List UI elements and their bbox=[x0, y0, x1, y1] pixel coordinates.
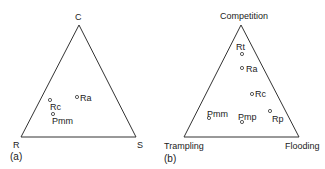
point-a-ra bbox=[75, 95, 78, 98]
point-label-b-rt: Rt bbox=[236, 42, 245, 52]
point-label-a-rc: Rc bbox=[50, 102, 61, 112]
vertex-label-left-b: Trampling bbox=[164, 141, 204, 151]
panel-caption-b: (b) bbox=[164, 153, 176, 164]
vertex-label-right-a: S bbox=[137, 140, 143, 150]
point-b-rc bbox=[250, 92, 253, 95]
vertex-label-right-b: Flooding bbox=[285, 141, 320, 151]
ternary-diagrams bbox=[0, 0, 325, 169]
point-label-b-rc: Rc bbox=[255, 89, 266, 99]
point-b-ra bbox=[240, 66, 243, 69]
panel-caption-a: (a) bbox=[10, 151, 22, 162]
point-label-a-pmm: Pmm bbox=[52, 116, 73, 126]
point-b-rp bbox=[268, 109, 271, 112]
point-label-b-pmm: Pmm bbox=[207, 109, 228, 119]
triangle-a bbox=[21, 25, 136, 137]
point-label-b-pmp: Pmp bbox=[238, 112, 257, 122]
vertex-label-top-b: Competition bbox=[220, 11, 268, 21]
vertex-label-left-a: R bbox=[13, 140, 20, 150]
point-b-rt bbox=[240, 52, 243, 55]
point-label-b-ra: Ra bbox=[246, 64, 258, 74]
point-label-a-ra: Ra bbox=[80, 93, 92, 103]
point-label-b-rp: Rp bbox=[272, 114, 284, 124]
vertex-label-top-a: C bbox=[75, 12, 82, 22]
